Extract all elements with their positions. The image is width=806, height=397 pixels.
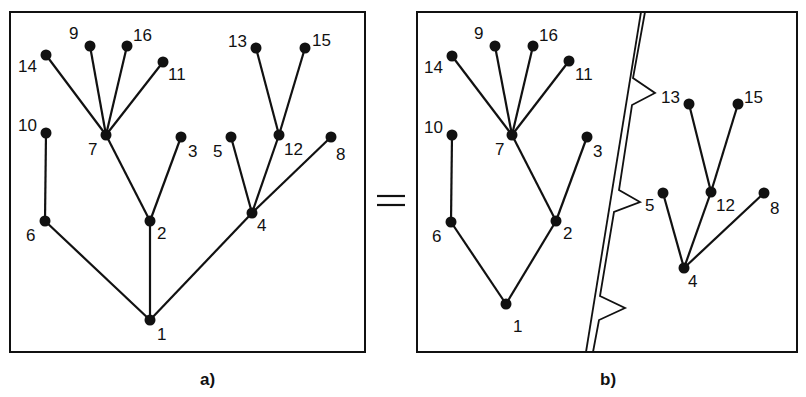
node-label-7: 7: [495, 140, 504, 159]
tree-edge-7-14: [46, 55, 106, 135]
tree-node-11: [158, 57, 169, 68]
node-label-15: 15: [744, 88, 763, 107]
node-label-13: 13: [661, 88, 680, 107]
node-label-16: 16: [133, 26, 152, 45]
tree-node-5: [226, 132, 237, 143]
node-label-8: 8: [336, 145, 345, 164]
tree-edge-6-10: [45, 133, 46, 221]
tree-node-12: [706, 187, 717, 198]
tree-edge-7-14: [452, 56, 512, 135]
tree-node-7: [507, 130, 518, 141]
node-label-1: 1: [157, 325, 166, 344]
tree-node-13: [251, 43, 262, 54]
tree-node-8: [759, 188, 770, 199]
cut-line-separator: [586, 12, 655, 352]
tree-node-15: [733, 99, 744, 110]
tree-node-10: [447, 130, 458, 141]
tree-node-1: [501, 299, 512, 310]
tree-node-8: [326, 132, 337, 143]
tree-node-6: [40, 216, 51, 227]
node-label-2: 2: [157, 224, 166, 243]
node-label-11: 11: [575, 65, 593, 84]
node-label-16: 16: [539, 26, 558, 45]
node-label-6: 6: [26, 226, 35, 245]
tree-edge-4-5: [231, 137, 252, 213]
tree-node-12: [274, 130, 285, 141]
tree-edge-2-7: [106, 135, 150, 221]
node-label-8: 8: [770, 199, 779, 218]
node-label-12: 12: [716, 196, 735, 215]
tree-node-5: [658, 188, 669, 199]
panel-frame: [417, 12, 797, 352]
tree-edge-7-9: [90, 46, 106, 135]
tree-node-14: [447, 51, 458, 62]
node-label-5: 5: [645, 196, 654, 215]
node-label-13: 13: [228, 32, 247, 51]
node-label-7: 7: [88, 140, 97, 159]
equals-sign: [377, 196, 405, 205]
node-label-14: 14: [424, 58, 443, 77]
node-label-10: 10: [18, 116, 37, 135]
caption-b: b): [600, 370, 616, 389]
tree-edge-7-9: [495, 46, 512, 135]
node-label-12: 12: [284, 140, 303, 159]
tree-node-9: [490, 41, 501, 52]
node-label-15: 15: [312, 31, 331, 50]
tree-node-13: [684, 99, 695, 110]
tree-node-2: [145, 216, 156, 227]
tree-edge-2-3: [150, 137, 181, 221]
tree-edge-1-6: [451, 222, 506, 304]
tree-edge-12-15: [279, 48, 305, 135]
tree-node-11: [564, 56, 575, 67]
node-label-2: 2: [563, 224, 572, 243]
tree-node-6: [446, 217, 457, 228]
tree-edge-6-10: [451, 135, 452, 222]
node-label-3: 3: [188, 142, 197, 161]
tree-node-3: [582, 132, 593, 143]
tree-edge-1-6: [45, 221, 150, 320]
node-label-14: 14: [18, 57, 37, 76]
panel-a-original-tree: 12345678910111213141516: [10, 12, 365, 352]
tree-edge-12-13: [689, 104, 711, 192]
node-label-3: 3: [593, 142, 602, 161]
node-label-5: 5: [213, 142, 222, 161]
panel-frame: [10, 12, 365, 352]
cut-line-outer: [586, 12, 641, 352]
node-label-9: 9: [69, 24, 78, 43]
node-label-6: 6: [432, 227, 441, 246]
tree-edge-12-13: [256, 48, 279, 135]
caption-a: a): [200, 370, 215, 389]
tree-edge-4-5: [663, 193, 684, 268]
tree-edge-2-7: [512, 135, 556, 221]
node-label-1: 1: [513, 317, 522, 336]
tree-node-10: [41, 128, 52, 139]
tree-node-7: [101, 130, 112, 141]
tree-node-1: [145, 315, 156, 326]
tree-node-16: [122, 41, 133, 52]
node-label-9: 9: [474, 24, 483, 43]
node-label-4: 4: [257, 216, 266, 235]
node-label-11: 11: [168, 65, 186, 84]
tree-edge-2-3: [556, 137, 587, 221]
tree-node-16: [528, 41, 539, 52]
tree-edge-1-2: [506, 221, 556, 304]
tree-node-15: [300, 43, 311, 54]
cut-line-inner-zigzag: [593, 12, 655, 352]
tree-decomposition-diagram: 12345678910111213141516 1234567891011121…: [0, 0, 806, 397]
tree-node-3: [176, 132, 187, 143]
tree-node-14: [41, 50, 52, 61]
tree-node-9: [85, 41, 96, 52]
tree-node-4: [247, 208, 258, 219]
tree-node-2: [551, 216, 562, 227]
node-label-4: 4: [688, 272, 697, 291]
tree-edge-12-15: [711, 104, 738, 192]
panel-b-split-trees: 12345678910111213141516: [417, 12, 797, 352]
node-label-10: 10: [424, 118, 443, 137]
